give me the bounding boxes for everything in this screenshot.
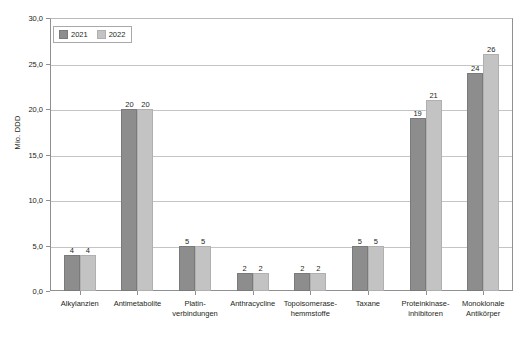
y-axis-tick-label: 0,0: [17, 287, 43, 296]
bar-chart: Mio. DDD 0,05,010,015,020,025,030,0 4420…: [0, 0, 532, 338]
bar-value-label: 2: [300, 264, 304, 273]
legend-label-2022: 2022: [109, 30, 126, 39]
y-axis-tick-label: 15,0: [17, 150, 43, 159]
bar-2021[interactable]: 24: [467, 73, 483, 291]
bar-value-label: 2: [243, 264, 247, 273]
bar-value-label: 5: [358, 237, 362, 246]
x-axis-category-line: verbindungen: [153, 309, 237, 319]
bar-value-label: 21: [429, 91, 437, 100]
legend-swatch-icon-2022: [97, 30, 106, 39]
bar-group: 22: [294, 18, 326, 291]
y-axis-tick-label: 10,0: [17, 196, 43, 205]
x-axis-tick-mark: [310, 291, 311, 295]
bar-value-label: 19: [413, 109, 421, 118]
bar-group: 2020: [121, 18, 153, 291]
x-axis-tick-mark: [195, 291, 196, 295]
bar-value-label: 20: [125, 100, 133, 109]
bar-value-label: 26: [487, 45, 495, 54]
x-axis-tick-mark: [253, 291, 254, 295]
bar-2022[interactable]: 2: [253, 273, 269, 291]
bar-group: 1921: [410, 18, 442, 291]
bar-value-label: 2: [259, 264, 263, 273]
x-axis-tick-mark: [80, 291, 81, 295]
bar-value-label: 5: [185, 237, 189, 246]
y-axis-tick-label: 20,0: [17, 105, 43, 114]
bar-group: 22: [237, 18, 269, 291]
y-axis-tick-label: 5,0: [17, 241, 43, 250]
bar-group: 44: [64, 18, 96, 291]
bar-2022[interactable]: 26: [483, 54, 499, 291]
bars-layer: 4420205522225519212426: [51, 18, 512, 291]
y-axis-tick-label: 30,0: [17, 14, 43, 23]
bar-value-label: 5: [374, 237, 378, 246]
x-axis-category-line: Antikörper: [441, 309, 525, 319]
bar-group: 2426: [467, 18, 499, 291]
x-axis-tick-mark: [368, 291, 369, 295]
bar-value-label: 4: [70, 246, 74, 255]
x-axis-category-label: MonoklonaleAntikörper: [441, 299, 525, 318]
bar-group: 55: [352, 18, 384, 291]
y-axis-title: Mio. DDD: [13, 88, 22, 178]
bar-2021[interactable]: 2: [294, 273, 310, 291]
bar-2022[interactable]: 5: [368, 246, 384, 292]
bar-2022[interactable]: 21: [426, 100, 442, 291]
bar-2021[interactable]: 4: [64, 255, 80, 291]
legend-label-2021: 2021: [71, 30, 88, 39]
y-axis-tick-mark: [46, 291, 50, 292]
bar-2021[interactable]: 19: [410, 118, 426, 291]
x-axis-tick-mark: [426, 291, 427, 295]
bar-2022[interactable]: 20: [137, 109, 153, 291]
bar-2021[interactable]: 5: [179, 246, 195, 292]
bar-value-label: 24: [471, 64, 479, 73]
bar-group: 55: [179, 18, 211, 291]
bar-2021[interactable]: 5: [352, 246, 368, 292]
bar-value-label: 2: [316, 264, 320, 273]
x-axis-tick-mark: [483, 291, 484, 295]
bar-2022[interactable]: 4: [80, 255, 96, 291]
bar-2021[interactable]: 2: [237, 273, 253, 291]
x-axis-category-line: Monoklonale: [441, 299, 525, 309]
legend-item-2021[interactable]: 2021: [59, 30, 88, 39]
bar-2022[interactable]: 5: [195, 246, 211, 292]
legend-item-2022[interactable]: 2022: [97, 30, 126, 39]
bar-value-label: 5: [201, 237, 205, 246]
legend: 2021 2022: [53, 26, 132, 43]
bar-value-label: 20: [141, 100, 149, 109]
x-axis-tick-mark: [137, 291, 138, 295]
legend-swatch-icon-2021: [59, 30, 68, 39]
bar-2022[interactable]: 2: [310, 273, 326, 291]
bar-2021[interactable]: 20: [121, 109, 137, 291]
y-axis-tick-label: 25,0: [17, 59, 43, 68]
bar-value-label: 4: [86, 246, 90, 255]
x-axis-category-line: hemmstoffe: [268, 309, 352, 319]
